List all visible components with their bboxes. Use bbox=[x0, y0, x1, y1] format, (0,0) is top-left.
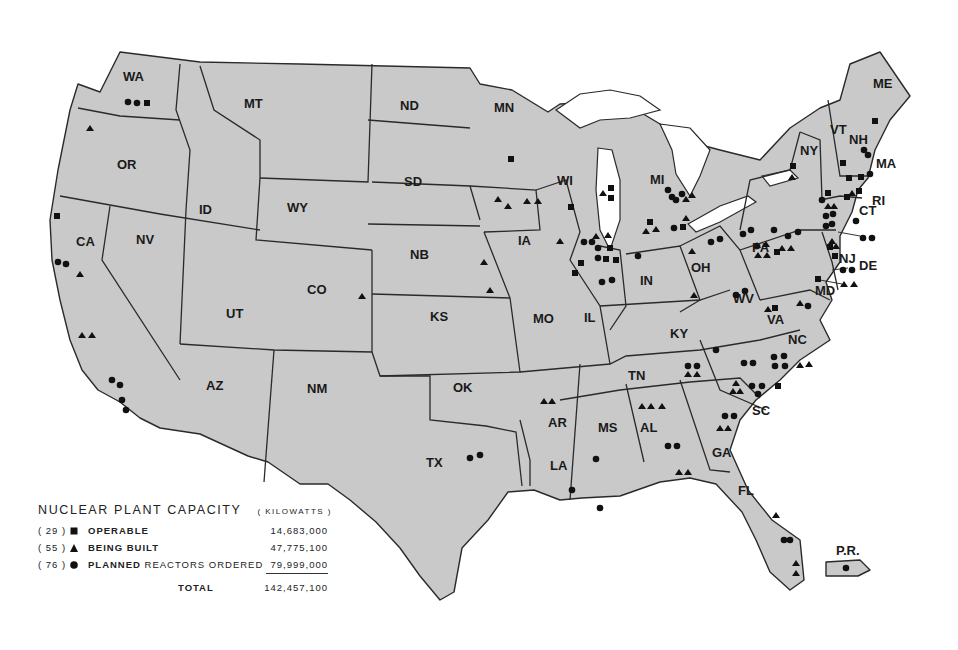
legend-unit: ( KILOWATTS ) bbox=[257, 507, 332, 516]
legend-count: ( 55 ) bbox=[38, 542, 66, 553]
svg-text:CA: CA bbox=[76, 234, 95, 249]
legend-row-being-built: ( 55 ) BEING BUILT 47,775,100 bbox=[38, 542, 328, 558]
svg-text:CO: CO bbox=[307, 282, 327, 297]
legend-label: PLANNED REACTORS ORDERED bbox=[88, 559, 263, 570]
svg-text:MO: MO bbox=[533, 311, 554, 326]
svg-text:MA: MA bbox=[876, 156, 897, 171]
svg-text:OR: OR bbox=[117, 157, 137, 172]
svg-text:LA: LA bbox=[550, 458, 568, 473]
svg-text:NJ: NJ bbox=[839, 251, 856, 266]
svg-text:MD: MD bbox=[815, 283, 835, 298]
svg-text:CT: CT bbox=[859, 203, 876, 218]
legend-row-total: TOTAL 142,457,100 bbox=[38, 582, 328, 598]
svg-text:MI: MI bbox=[650, 172, 664, 187]
legend-value: 79,999,000 bbox=[270, 559, 328, 570]
svg-text:SC: SC bbox=[752, 403, 771, 418]
svg-text:AL: AL bbox=[640, 420, 657, 435]
legend-count: ( 76 ) bbox=[38, 559, 66, 570]
svg-text:IA: IA bbox=[518, 233, 532, 248]
svg-text:KY: KY bbox=[670, 326, 688, 341]
svg-text:WI: WI bbox=[557, 173, 573, 188]
sum-rule bbox=[266, 573, 328, 574]
svg-text:SD: SD bbox=[404, 174, 422, 189]
svg-text:UT: UT bbox=[226, 306, 243, 321]
svg-text:GA: GA bbox=[712, 445, 732, 460]
total-label: TOTAL bbox=[178, 582, 214, 593]
svg-text:NM: NM bbox=[307, 381, 327, 396]
legend-count: ( 29 ) bbox=[38, 525, 66, 536]
svg-text:IN: IN bbox=[640, 273, 653, 288]
svg-text:WA: WA bbox=[123, 69, 145, 84]
svg-text:ID: ID bbox=[199, 202, 212, 217]
svg-text:MN: MN bbox=[494, 100, 514, 115]
svg-text:VT: VT bbox=[830, 122, 847, 137]
legend-label: BEING BUILT bbox=[88, 542, 159, 553]
svg-text:NB: NB bbox=[410, 247, 429, 262]
circle-icon bbox=[70, 561, 78, 569]
svg-text:IL: IL bbox=[584, 310, 596, 325]
svg-text:AR: AR bbox=[548, 415, 567, 430]
square-icon bbox=[70, 527, 78, 535]
legend-label: OPERABLE bbox=[88, 525, 149, 536]
svg-text:KS: KS bbox=[430, 309, 448, 324]
legend-row-operable: ( 29 ) OPERABLE 14,683,000 bbox=[38, 525, 328, 541]
svg-text:DE: DE bbox=[859, 258, 877, 273]
svg-text:VA: VA bbox=[767, 312, 785, 327]
triangle-icon bbox=[70, 544, 78, 552]
svg-text:OH: OH bbox=[691, 260, 711, 275]
legend: NUCLEAR PLANT CAPACITY ( KILOWATTS ) ( 2… bbox=[38, 503, 338, 517]
legend-value: 47,775,100 bbox=[270, 542, 328, 553]
svg-text:AZ: AZ bbox=[206, 378, 223, 393]
svg-text:WY: WY bbox=[287, 200, 308, 215]
svg-text:P.R.: P.R. bbox=[836, 543, 860, 558]
svg-text:TN: TN bbox=[628, 368, 645, 383]
svg-text:ND: ND bbox=[400, 98, 419, 113]
svg-text:NH: NH bbox=[849, 132, 868, 147]
legend-value: 14,683,000 bbox=[270, 525, 328, 536]
svg-text:FL: FL bbox=[738, 483, 754, 498]
svg-text:OK: OK bbox=[453, 380, 473, 395]
svg-text:NV: NV bbox=[136, 232, 154, 247]
total-value: 142,457,100 bbox=[264, 582, 328, 593]
svg-text:MT: MT bbox=[244, 96, 263, 111]
svg-text:NC: NC bbox=[788, 332, 807, 347]
svg-text:TX: TX bbox=[426, 455, 443, 470]
svg-text:ME: ME bbox=[873, 76, 893, 91]
svg-text:NY: NY bbox=[800, 143, 818, 158]
svg-text:MS: MS bbox=[598, 420, 618, 435]
